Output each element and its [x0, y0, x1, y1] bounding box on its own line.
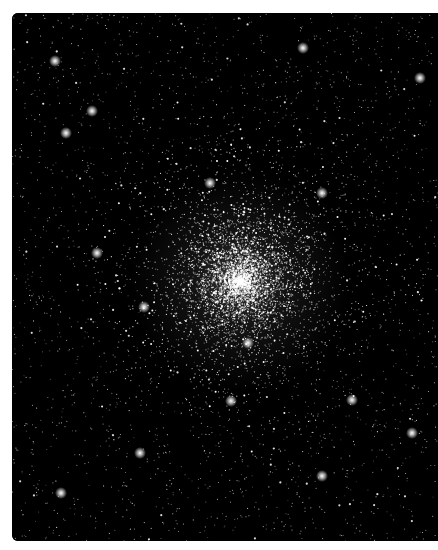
starfield-canvas [12, 13, 438, 541]
star-cluster-photo: Black-and-white astronomical photograph … [12, 13, 438, 541]
